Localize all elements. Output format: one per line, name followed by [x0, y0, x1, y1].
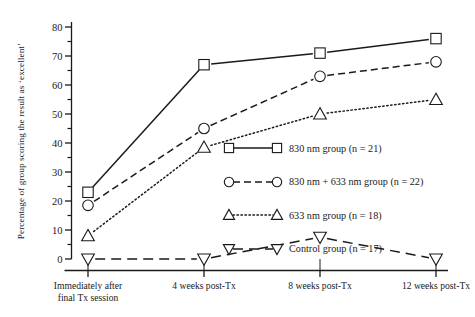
chart-legend: 830 nm group (n = 21)830 nm + 633 nm gro… — [222, 140, 423, 204]
data-point-marker — [83, 187, 93, 197]
series-line-segment — [327, 39, 429, 52]
data-point-marker — [315, 71, 326, 82]
series-line-segment — [327, 63, 429, 76]
series-line-segment — [327, 100, 429, 113]
legend-item[interactable]: 633 nm group (n = 18) — [222, 207, 423, 223]
data-point-marker — [198, 141, 211, 152]
x-axis-ticks — [88, 259, 436, 277]
legend-item-label: Control group (n = 17) — [289, 243, 382, 254]
data-point-marker — [82, 229, 95, 240]
data-point-marker — [431, 56, 442, 67]
legend-marker-sample — [222, 140, 284, 156]
y-axis-ticks — [65, 27, 72, 259]
series-line-segment — [211, 54, 313, 64]
legend-item-label: 830 nm + 633 nm group (n = 22) — [289, 176, 423, 187]
data-point-marker — [431, 33, 441, 43]
legend-marker-sample — [222, 207, 284, 223]
series-line-segment — [94, 152, 199, 232]
data-point-marker — [430, 93, 443, 104]
legend-marker-sample — [222, 241, 284, 257]
data-point-marker — [82, 254, 95, 265]
data-point-marker — [314, 108, 327, 119]
data-point-marker — [199, 60, 209, 70]
legend-item[interactable]: 830 nm group (n = 21) — [222, 140, 423, 156]
legend-item[interactable]: 830 nm + 633 nm group (n = 22) — [222, 174, 423, 190]
series-line-segment — [94, 132, 198, 201]
data-point-marker — [430, 254, 443, 265]
data-point-marker — [315, 48, 325, 58]
data-point-marker — [199, 123, 210, 134]
series-line-segment — [211, 79, 314, 125]
legend-marker-sample — [222, 174, 284, 190]
data-point-marker — [198, 254, 211, 265]
legend-item-label: 830 nm group (n = 21) — [289, 143, 382, 154]
legend-item-label: 633 nm group (n = 18) — [289, 210, 382, 221]
series-line-segment — [93, 70, 199, 187]
data-point-marker — [83, 200, 94, 211]
legend-item[interactable]: Control group (n = 17) — [222, 241, 423, 257]
